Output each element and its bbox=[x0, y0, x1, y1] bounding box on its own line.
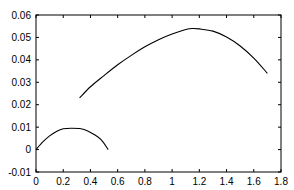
y-tick-label: 0.05 bbox=[12, 32, 32, 43]
plot-area bbox=[36, 15, 281, 172]
y-tick-label: 0.02 bbox=[12, 99, 32, 110]
y-tick-label: 0.01 bbox=[12, 122, 32, 133]
y-tick-label: 0.06 bbox=[12, 10, 32, 21]
x-tick-label: 1.8 bbox=[274, 176, 288, 187]
x-tick-label: 0.8 bbox=[138, 176, 152, 187]
line-chart: 00.20.40.60.811.21.41.61.8 -0.0100.010.0… bbox=[0, 0, 294, 190]
y-tick-label: -0.01 bbox=[8, 167, 31, 178]
x-tick-label: 0.2 bbox=[56, 176, 70, 187]
y-tick-label: 0.04 bbox=[12, 54, 32, 65]
x-tick-label: 0.4 bbox=[83, 176, 97, 187]
y-tick-label: 0 bbox=[25, 144, 31, 155]
x-tick-label: 1 bbox=[169, 176, 175, 187]
y-tick-label: 0.03 bbox=[12, 77, 32, 88]
x-tick-label: 1.2 bbox=[192, 176, 206, 187]
x-tick-label: 1.6 bbox=[247, 176, 261, 187]
x-tick-label: 0.6 bbox=[111, 176, 125, 187]
x-tick-label: 0 bbox=[33, 176, 39, 187]
x-tick-label: 1.4 bbox=[220, 176, 234, 187]
